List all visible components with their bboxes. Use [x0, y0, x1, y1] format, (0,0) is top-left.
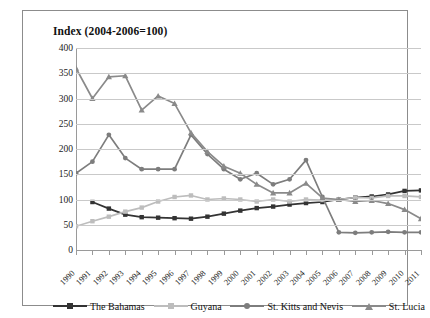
x-axis-tick [322, 251, 323, 255]
gridline [76, 200, 421, 201]
x-axis-tick-label: 2004 [288, 268, 307, 287]
x-axis-tick-label: 2003 [271, 268, 290, 287]
legend-label: Guyana [191, 301, 222, 312]
x-axis-tick [339, 251, 340, 255]
gridline [76, 174, 421, 175]
legend-marker-square-icon [168, 303, 174, 309]
y-axis-tick-label: 350 [59, 68, 73, 78]
x-axis-tick [240, 251, 241, 255]
x-axis-tick-label: 2007 [337, 268, 356, 287]
x-axis-tick-label: 1994 [123, 268, 142, 287]
x-axis-tick-label: 2009 [370, 268, 389, 287]
x-axis-tick-label: 2002 [255, 268, 274, 287]
x-axis-tick [158, 251, 159, 255]
x-axis-tick [109, 251, 110, 255]
x-axis-tick [175, 251, 176, 255]
gridline [76, 124, 421, 125]
x-axis-tick-label: 1996 [156, 268, 175, 287]
x-axis-tick [405, 251, 406, 255]
legend-swatch [230, 301, 264, 311]
legend-item-the-bahamas[interactable]: The Bahamas [53, 301, 145, 312]
legend-label: St. Kitts and Nevis [267, 301, 343, 312]
x-axis-tick-label: 2011 [403, 268, 422, 287]
x-axis-tick [290, 251, 291, 255]
legend-item-guyana[interactable]: Guyana [154, 301, 222, 312]
x-axis-tick-label: 1997 [173, 268, 192, 287]
chart-title: Index (2004-2006=100) [53, 25, 167, 37]
x-axis-tick [191, 251, 192, 255]
x-axis-tick-label: 1993 [107, 268, 126, 287]
x-axis-tick [125, 251, 126, 255]
x-axis-tick-label: 2008 [353, 268, 372, 287]
gridlines [76, 48, 421, 250]
x-axis-tick-label: 2005 [304, 268, 323, 287]
x-axis-tick-label: 2006 [320, 268, 339, 287]
gridline [76, 99, 421, 100]
plot-area [76, 48, 421, 250]
y-axis-tick-label: 400 [59, 43, 73, 53]
x-axis-tick [355, 251, 356, 255]
gridline [76, 48, 421, 49]
y-axis-tick-labels: 400350300250200150100500 [45, 48, 73, 251]
x-axis-tick-label: 1991 [74, 268, 93, 287]
legend-item-st-kitts-and-nevis[interactable]: St. Kitts and Nevis [230, 301, 343, 312]
legend-item-st-lucia[interactable]: St. Lucia [352, 301, 425, 312]
x-axis-tick [92, 251, 93, 255]
legend-swatch [352, 301, 386, 311]
y-axis-tick-label: 50 [64, 220, 74, 230]
y-axis-tick-label: 200 [59, 144, 73, 154]
gridline [76, 225, 421, 226]
gridline [76, 149, 421, 150]
legend-marker-square-icon [67, 303, 73, 309]
x-axis-tick-label: 2000 [222, 268, 241, 287]
legend-swatch [53, 301, 87, 311]
x-axis-tick-label: 1998 [189, 268, 208, 287]
legend-marker-triangle-icon [365, 303, 373, 310]
x-axis-tick-label: 2010 [386, 268, 405, 287]
x-axis-tick-labels: 1990199119921993199419951996199719981999… [76, 256, 422, 296]
y-axis-tick-label: 100 [59, 195, 73, 205]
x-axis-tick [421, 251, 422, 255]
y-axis-tick-label: 250 [59, 119, 73, 129]
x-axis-tick-label: 1995 [140, 268, 159, 287]
x-axis-tick [257, 251, 258, 255]
legend-label: The Bahamas [90, 301, 145, 312]
x-axis-tick-label: 1992 [90, 268, 109, 287]
y-axis-tick-label: 300 [59, 94, 73, 104]
y-axis-tick-label: 0 [68, 245, 73, 255]
x-axis-tick [76, 251, 77, 255]
gridline [76, 73, 421, 74]
x-axis-tick [372, 251, 373, 255]
x-axis-tick-label: 1999 [205, 268, 224, 287]
y-axis-tick-label: 150 [59, 169, 73, 179]
chart-legend: The BahamasGuyanaSt. Kitts and NevisSt. … [53, 298, 425, 314]
x-axis-tick [273, 251, 274, 255]
x-axis-tick [142, 251, 143, 255]
x-axis-tick [224, 251, 225, 255]
chart-frame: Index (2004-2006=100) 400350300250200150… [22, 10, 408, 306]
x-axis-tick-label: 1990 [58, 268, 77, 287]
x-axis-tick-label: 2001 [238, 268, 257, 287]
legend-marker-circle-icon [244, 303, 250, 309]
x-axis-tick [388, 251, 389, 255]
legend-label: St. Lucia [389, 301, 425, 312]
legend-swatch [154, 301, 188, 311]
x-axis-tick [306, 251, 307, 255]
x-axis-tick [207, 251, 208, 255]
